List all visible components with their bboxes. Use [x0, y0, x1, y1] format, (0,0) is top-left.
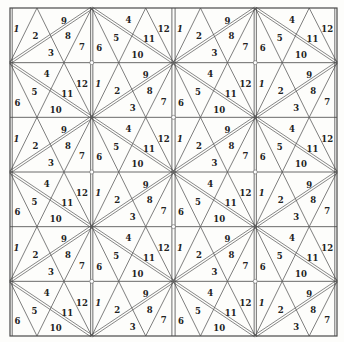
triangle-number-label: 5 [195, 87, 201, 97]
triangle-number-label: 4 [44, 179, 50, 189]
triangle-number-label: 1 [259, 188, 265, 198]
triangle-number-label: 7 [242, 42, 248, 52]
triangle-number-label: 3 [293, 212, 299, 222]
vertex-node [90, 279, 94, 283]
triangle-number-label: 5 [195, 306, 201, 316]
cell-A-r5c1: 123987 [91, 280, 174, 336]
triangle-number-label: 2 [278, 195, 284, 205]
triangle-number-label: 9 [306, 180, 312, 190]
triangle-number-label: 12 [321, 24, 333, 34]
triangle-number-label: 3 [48, 158, 54, 168]
triangle-number-label: 1 [14, 243, 20, 253]
triangle-number-label: 8 [229, 141, 235, 151]
triangle-number-label: 7 [161, 97, 167, 107]
triangle-number-label: 7 [79, 151, 85, 161]
triangle-number-label: 1 [259, 79, 265, 89]
cell-B-r2c1: 456121110 [91, 116, 174, 172]
triangle-number-label: 8 [65, 31, 71, 41]
triangle-number-label: 1 [14, 24, 20, 34]
triangle-number-label: 3 [293, 103, 299, 113]
cell-A-r4c2: 123987 [173, 226, 256, 282]
triangle-number-label: 7 [79, 42, 85, 52]
vertex-node [253, 61, 257, 65]
triangle-number-label: 7 [324, 206, 330, 216]
triangle-number-label: 2 [32, 31, 38, 41]
triangle-number-grid: 1239874561211101239874561211104561211101… [0, 0, 344, 342]
triangle-number-label: 1 [14, 134, 20, 144]
triangle-number-label: 12 [240, 79, 252, 89]
triangle-number-label: 7 [242, 261, 248, 271]
triangle-number-label: 9 [61, 16, 67, 26]
triangle-number-label: 10 [132, 50, 144, 60]
triangle-number-label: 9 [224, 16, 230, 26]
triangle-number-label: 7 [242, 151, 248, 161]
cell-A-r2c0: 123987 [9, 116, 92, 172]
triangle-number-label: 9 [306, 289, 312, 299]
triangle-number-label: 1 [95, 79, 101, 89]
triangle-number-label: 2 [196, 31, 202, 41]
triangle-number-label: 8 [229, 31, 235, 41]
triangle-number-label: 3 [211, 48, 217, 58]
triangle-number-label: 5 [277, 33, 283, 43]
vertex-node [90, 61, 94, 65]
triangle-number-label: 3 [211, 267, 217, 277]
triangle-number-label: 6 [96, 152, 102, 162]
triangle-number-label: 2 [278, 305, 284, 315]
triangle-number-label: 6 [14, 98, 20, 108]
triangle-number-label: 10 [50, 105, 62, 115]
triangle-number-label: 1 [259, 298, 265, 308]
triangle-number-label: 4 [289, 124, 295, 134]
triangle-number-label: 1 [177, 243, 183, 253]
triangle-number-label: 5 [195, 197, 201, 207]
triangle-number-label: 7 [161, 315, 167, 325]
triangle-number-label: 8 [310, 195, 316, 205]
triangle-number-label: 4 [207, 179, 213, 189]
triangle-number-label: 11 [143, 34, 155, 44]
triangle-number-label: 4 [126, 124, 132, 134]
triangle-number-label: 5 [113, 142, 119, 152]
triangle-number-label: 12 [158, 243, 170, 253]
triangle-number-label: 3 [130, 103, 136, 113]
triangle-number-label: 12 [240, 298, 252, 308]
triangle-number-label: 6 [14, 207, 20, 217]
triangle-number-label: 8 [65, 141, 71, 151]
triangle-number-label: 4 [207, 288, 213, 298]
vertex-node [172, 115, 176, 119]
triangle-number-label: 8 [229, 250, 235, 260]
triangle-number-label: 6 [260, 43, 266, 53]
triangle-number-label: 8 [65, 250, 71, 260]
triangle-number-label: 5 [32, 87, 38, 97]
cell-B-r1c2: 456121110 [173, 62, 256, 118]
cell-B-r3c0: 456121110 [9, 171, 92, 227]
triangle-number-label: 7 [324, 315, 330, 325]
triangle-number-label: 10 [50, 323, 62, 333]
cell-A-r2c2: 123987 [173, 116, 256, 172]
triangle-number-label: 10 [295, 269, 307, 279]
triangle-number-label: 10 [132, 159, 144, 169]
triangle-number-label: 1 [95, 298, 101, 308]
triangle-number-label: 6 [14, 316, 20, 326]
vertex-node [90, 170, 94, 174]
triangle-number-label: 3 [130, 322, 136, 332]
triangle-number-label: 11 [143, 253, 155, 263]
triangle-number-label: 11 [307, 253, 319, 263]
cell-A-r5c3: 123987 [255, 280, 338, 336]
triangle-number-label: 10 [295, 50, 307, 60]
triangle-number-label: 9 [224, 125, 230, 135]
triangle-number-label: 3 [48, 48, 54, 58]
triangle-number-label: 9 [143, 70, 149, 80]
cell-B-r4c1: 456121110 [91, 226, 174, 282]
cell-A-r3c3: 123987 [255, 171, 338, 227]
triangle-number-label: 6 [178, 316, 184, 326]
triangle-number-label: 1 [177, 24, 183, 34]
cell-B-r5c0: 456121110 [9, 280, 92, 336]
vertex-node [253, 170, 257, 174]
triangle-number-label: 10 [213, 323, 225, 333]
triangle-number-label: 10 [295, 159, 307, 169]
triangle-number-label: 9 [306, 70, 312, 80]
triangle-number-label: 12 [321, 134, 333, 144]
triangle-number-label: 10 [132, 269, 144, 279]
triangle-number-label: 11 [143, 144, 155, 154]
triangle-number-label: 6 [178, 207, 184, 217]
triangle-number-label: 5 [113, 251, 119, 261]
